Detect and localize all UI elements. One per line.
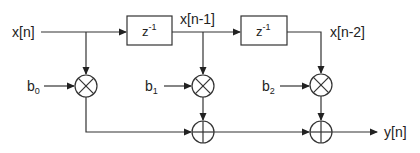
product-0-wire [86, 97, 191, 132]
adder-2-icon [310, 121, 332, 143]
input-label: x[n] [12, 24, 35, 40]
adder-1-icon [192, 121, 214, 143]
delay-2-exponent: -1 [263, 22, 271, 32]
output-label: y[n] [384, 124, 407, 140]
multiplier-1-icon [192, 75, 214, 97]
tap-1-label: x[n-1] [180, 11, 215, 27]
tap-2-label: x[n-2] [330, 24, 365, 40]
delay-1-exponent: -1 [149, 22, 157, 32]
delay-2-output-wire [287, 32, 321, 73]
fir-filter-diagram: x[n] z-1 x[n-1] z-1 x[n-2] b0 b1 b2 [0, 0, 420, 153]
delay-block-1: z-1 [127, 16, 172, 45]
multiplier-2-icon [310, 74, 332, 96]
delay-block-2: z-1 [241, 16, 287, 45]
coefficient-b1: b1 [145, 78, 158, 96]
coefficient-b2: b2 [262, 78, 275, 96]
coefficient-b0: b0 [27, 78, 40, 96]
multiplier-0-icon [75, 75, 97, 97]
